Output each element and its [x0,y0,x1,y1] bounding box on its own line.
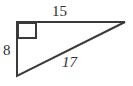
side-label-top-leg: 15 [52,4,67,19]
side-label-hypotenuse: 17 [62,55,77,70]
side-label-left-leg: 8 [3,43,11,58]
right-triangle-diagram: 15 8 17 [0,0,133,86]
right-angle-square-icon [18,23,36,38]
